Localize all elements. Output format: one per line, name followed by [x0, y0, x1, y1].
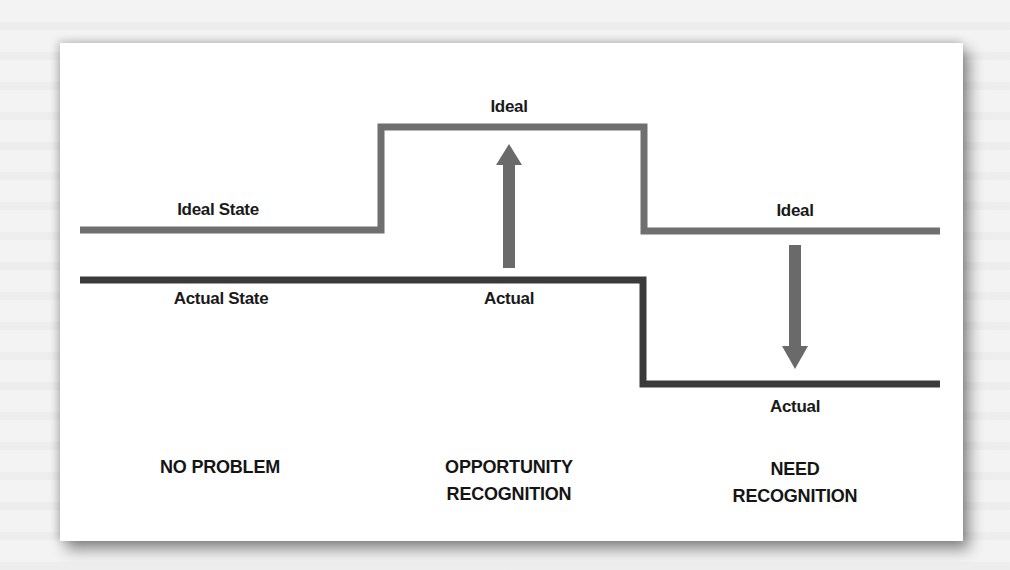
opportunity-actual-label: Actual	[484, 289, 534, 309]
need-actual-label: Actual	[770, 397, 820, 417]
no-problem-caption: NO PROBLEM	[160, 454, 280, 481]
caption-line-1: OPPORTUNITY	[445, 454, 573, 481]
need-recognition-caption: NEED RECOGNITION	[733, 456, 858, 510]
actual-state-label: Actual State	[174, 289, 269, 309]
need-ideal-label: Ideal	[776, 201, 813, 221]
up-arrow-icon	[496, 144, 522, 268]
caption-line-2: RECOGNITION	[733, 483, 858, 510]
down-arrow-icon	[782, 245, 808, 369]
caption-line-2: RECOGNITION	[445, 481, 573, 508]
ideal-state-label: Ideal State	[177, 200, 259, 220]
caption-line-1: NO PROBLEM	[160, 454, 280, 481]
opportunity-recognition-caption: OPPORTUNITY RECOGNITION	[445, 454, 573, 508]
opportunity-ideal-label: Ideal	[490, 97, 527, 117]
caption-line-1: NEED	[733, 456, 858, 483]
